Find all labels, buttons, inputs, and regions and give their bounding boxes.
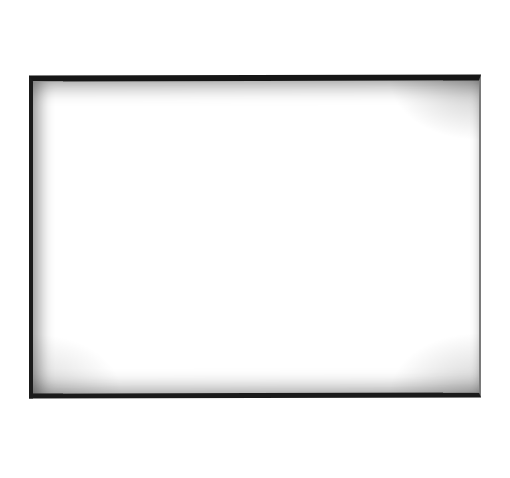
- frame-vignette: [33, 80, 479, 393]
- corner-shade-bottom-right: [389, 332, 479, 392]
- corner-shade-bottom-left: [33, 333, 123, 393]
- blank-frame: [29, 74, 481, 398]
- canvas: [0, 0, 510, 478]
- corner-shade-top-right: [389, 80, 479, 140]
